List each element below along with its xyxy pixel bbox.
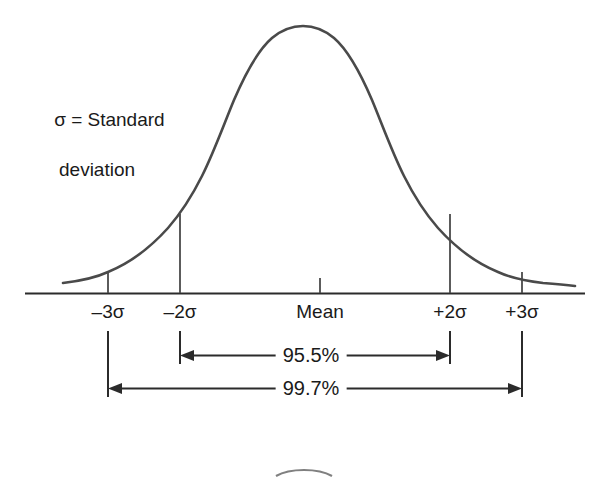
axis-label-mean: Mean bbox=[296, 301, 344, 323]
legend-line-1: σ = Standard bbox=[54, 109, 165, 130]
legend-sigma-definition: σ = Standard deviation bbox=[33, 82, 165, 232]
band-label-95: 95.5% bbox=[276, 344, 347, 367]
bell-curve-figure: σ = Standard deviation –3σ –2σ Mean +2σ … bbox=[0, 0, 609, 477]
axis-label-minus2sigma: –2σ bbox=[164, 301, 197, 323]
axis-label-minus3sigma: –3σ bbox=[92, 301, 125, 323]
band-label-99: 99.7% bbox=[276, 377, 347, 400]
axis-label-plus2sigma: +2σ bbox=[433, 301, 466, 323]
legend-line-2: deviation bbox=[33, 157, 165, 182]
cropped-arc-fragment bbox=[276, 470, 332, 476]
distribution-chart-svg bbox=[0, 0, 609, 477]
axis-label-plus3sigma: +3σ bbox=[505, 301, 538, 323]
